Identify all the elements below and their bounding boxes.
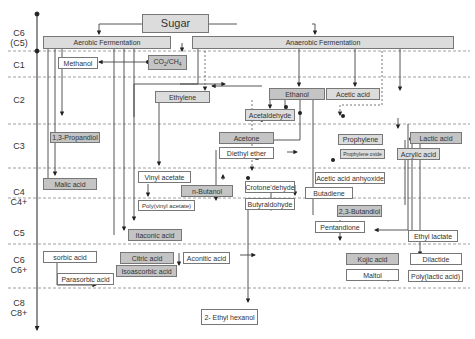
carbon-axis: [35, 12, 39, 330]
propandiol-node: 1,3-Propandiol: [50, 132, 100, 143]
acetic-acid-node: Acetic acid: [326, 88, 380, 100]
ethyl-hexanol-node: 2- Ethyl hexanol: [201, 309, 258, 325]
level-label-c6: C6 C6+: [4, 255, 34, 276]
crotonaldehyde-node: Crotone'dehyde: [245, 181, 295, 193]
kojic-acid-node: Kojic acid: [346, 253, 399, 265]
itaconic-acid-node: Itaconic acid: [128, 229, 182, 241]
sorbic-acid-node: sorbic acid: [43, 251, 97, 263]
acetaldehyde-node: Acetaldehyde: [245, 109, 295, 121]
anaerobic-fermentation-node: Anaerobic Fermentation: [192, 36, 454, 49]
ethyl-lactate-node: Ethyl lactate: [408, 230, 458, 242]
citric-acid-node: Citric acid: [120, 252, 174, 264]
dilactide-node: Dilactide: [410, 253, 462, 265]
prophylene-oxide-node: Prophylene oxide: [340, 149, 385, 159]
n-butanol-node: n-Butanol: [181, 185, 233, 197]
maltol-node: Maltol: [346, 269, 399, 281]
level-label-c8: C8 C8+: [4, 298, 34, 319]
butyraldehyde-node: Butyraldohyde: [245, 198, 295, 210]
lactic-acid-node: Lactic acid: [410, 132, 462, 144]
ethanol-node: Ethanol: [269, 88, 325, 100]
pentandione-node: Pentandione: [315, 221, 365, 233]
prophylene-node: Prophylene: [338, 134, 383, 145]
level-label-c4: C4 C4+: [4, 187, 34, 208]
acrylic-acid-node: Acrylic acid: [397, 148, 440, 160]
acetone-node: Acetone: [219, 132, 274, 144]
butadiene-node: Butadiene: [305, 187, 353, 199]
level-label-c6c5: C6 (C5): [4, 28, 34, 49]
malic-acid-node: Malic acid: [43, 178, 97, 190]
co2-ch4-node: CO2/CH4: [148, 55, 187, 70]
acetic-anhydride-node: Acetic acid anhyoxide: [315, 172, 385, 184]
aerobic-fermentation-node: Aerobic Fermentation: [43, 36, 171, 49]
diethyl-ether-node: Diethyl ether: [219, 147, 274, 159]
aconitic-acid-node: Aconitic acid: [183, 252, 230, 264]
level-label-c1: C1: [4, 60, 34, 70]
level-label-c3: C3: [4, 141, 34, 151]
ethylene-node: Ethylene: [155, 91, 210, 103]
parasorbic-acid-node: Parasorbic acid: [57, 273, 114, 285]
sugar-node: Sugar: [142, 14, 209, 33]
poly-lactic-acid-node: Poly(lactic acid): [408, 270, 463, 282]
vinyl-acetate-node: Vinyl acetate: [138, 171, 191, 183]
connector-layer: [0, 0, 475, 339]
level-label-c2: C2: [4, 95, 34, 105]
methanol-node: Methanol: [58, 57, 98, 69]
isoascorbic-acid-node: Isoascorbic acid: [116, 265, 177, 277]
poly-vinyl-acetate-node: Poly(vinyl acetate): [138, 200, 195, 211]
butandiol-node: 2,3-Butandiol: [337, 205, 382, 217]
level-label-c5: C5: [4, 228, 34, 238]
